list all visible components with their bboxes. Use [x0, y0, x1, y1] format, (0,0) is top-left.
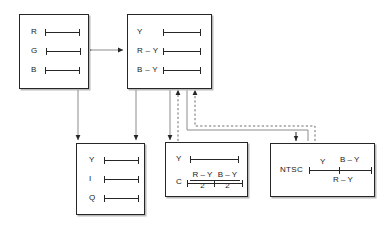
signal-row: B: [31, 66, 80, 74]
signal-row-c: C R – Y 2 B – Y 2: [176, 171, 240, 192]
bandwidth-bar: [190, 156, 239, 163]
bandwidth-bar: [104, 195, 139, 202]
bandwidth-bar: [45, 29, 80, 36]
signal-row: B – Y: [137, 66, 201, 74]
signal-label: G: [31, 47, 38, 55]
bandwidth-bar: [163, 29, 201, 36]
bandwidth-bar: [163, 67, 201, 74]
signal-label: C: [176, 171, 184, 186]
signal-row: Y: [89, 156, 139, 164]
box-yiq[interactable]: Y I Q: [76, 143, 145, 215]
bandwidth-bar: [104, 157, 139, 164]
ntsc-annotation-r-minus-y: R – Y: [333, 176, 353, 184]
chroma-baseline: [187, 180, 243, 187]
signal-row-y: Y: [176, 155, 239, 163]
signal-row: I: [89, 175, 139, 183]
signal-row: Q: [89, 194, 139, 202]
box-y-c[interactable]: Y C R – Y 2 B – Y 2: [165, 142, 248, 197]
ntsc-annotation-b-minus-y: B – Y: [340, 156, 359, 164]
connector-ntsc-to-colourdiff: [195, 90, 315, 141]
diagram-canvas: colour difference : horizontal double ar…: [0, 0, 392, 225]
signal-row: R – Y: [137, 47, 201, 55]
signal-label: B – Y: [137, 66, 160, 74]
bandwidth-bar: [46, 48, 81, 55]
ntsc-label: NTSC: [280, 166, 303, 174]
box-rgb[interactable]: R G B: [19, 14, 89, 89]
signal-label: R – Y: [137, 47, 160, 55]
signal-label: Y: [89, 156, 97, 164]
ntsc-spectrum: Y B – Y R – Y: [309, 167, 372, 174]
signal-row: R: [31, 28, 80, 36]
ntsc-annotation-luminance: Y: [320, 158, 325, 166]
fraction-numerator: B – Y: [215, 171, 240, 180]
signal-label: B: [31, 66, 37, 74]
signal-label: Q: [89, 194, 97, 202]
fraction-numerator: R – Y: [190, 171, 215, 180]
box-colour-difference[interactable]: Y R – Y B – Y: [127, 14, 212, 89]
bandwidth-bar: [163, 48, 201, 55]
signal-row: G: [31, 47, 81, 55]
signal-label: Y: [176, 155, 184, 163]
connector-colourdiff-to-ntsc: [187, 90, 308, 141]
ntsc-row: NTSC Y B – Y R – Y: [280, 166, 372, 174]
signal-label: R: [31, 28, 37, 36]
signal-row: Y: [137, 28, 201, 36]
chroma-fraction-group: R – Y 2 B – Y 2: [190, 171, 240, 192]
signal-label: I: [89, 175, 97, 183]
bandwidth-bar: [45, 67, 80, 74]
box-ntsc[interactable]: NTSC Y B – Y R – Y: [270, 143, 375, 197]
signal-label: Y: [137, 28, 160, 36]
bandwidth-bar: [104, 176, 139, 183]
